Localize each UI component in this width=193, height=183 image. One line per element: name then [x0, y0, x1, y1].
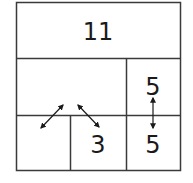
puzzle-diagram: 11 5 3 5	[0, 0, 193, 183]
cell-bottom-middle-value: 3	[90, 131, 105, 159]
cell-bottom-right-value: 5	[145, 131, 160, 159]
double-arrow-icon	[41, 105, 63, 128]
cell-top-value: 11	[83, 18, 114, 46]
cell-right-top-value: 5	[145, 73, 160, 101]
